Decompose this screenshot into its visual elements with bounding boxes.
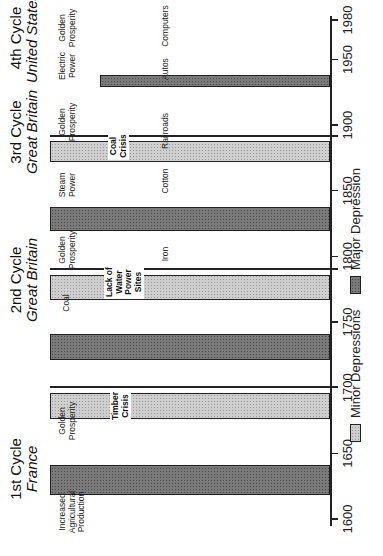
x-axis-tick — [330, 387, 338, 389]
cycle-separator-line — [50, 268, 338, 270]
major-depression-band — [50, 334, 330, 360]
x-axis-tick — [330, 59, 338, 61]
x-axis-tick — [330, 256, 338, 258]
cycle-title-3: 3rd Cycle Great Britain — [8, 90, 40, 174]
phase-label-golden-prosperity-2: Golden Prosperity — [58, 231, 77, 269]
crisis-label-timber: Timber Crisis — [110, 390, 131, 422]
legend-label-minor: Minor Depressions — [348, 310, 363, 418]
industry-label-autos: Autos — [160, 58, 170, 80]
minor-depression-band — [50, 275, 330, 300]
crisis-label-coal: Coal Crisis — [108, 132, 129, 160]
x-axis-tick-label: 1900 — [340, 111, 355, 140]
x-axis-tick — [330, 321, 338, 323]
cycle-number: 3rd Cycle — [8, 90, 24, 174]
phase-label-agricultural: Increased Agricultural Production — [58, 491, 87, 534]
cycle-number: 1st Cycle — [8, 438, 24, 500]
x-axis-tick-label: 1980 — [340, 6, 355, 35]
cycle-title-1: 1st Cycle France — [8, 438, 40, 500]
x-axis-tick-label: 1950 — [340, 45, 355, 74]
phase-label-steam-power: Steam Power — [58, 173, 77, 198]
legend-swatch-minor — [350, 424, 361, 442]
cycle-number: 2nd Cycle — [8, 238, 24, 322]
kondratieff-cycles-chart: 160016501700175018001850190019501980 1st… — [0, 0, 383, 556]
cycle-country: Great Britain — [24, 90, 40, 174]
industry-label-computers: Computers — [160, 5, 170, 47]
x-axis-line — [330, 16, 332, 526]
major-depression-band — [50, 207, 330, 232]
x-axis-tick — [330, 518, 338, 520]
x-axis-tick-label: 1600 — [340, 505, 355, 534]
x-axis-tick — [330, 19, 338, 21]
x-axis-tick-label: 1650 — [340, 439, 355, 468]
phase-label-coal: Coal — [62, 294, 72, 311]
cycle-country: France — [24, 438, 40, 500]
x-axis-tick — [330, 453, 338, 455]
phase-label-electric-power: Electric Power — [58, 52, 77, 80]
major-depression-band — [50, 465, 330, 495]
legend-label-major: Major Depression — [348, 168, 363, 270]
minor-depression-band — [50, 393, 330, 419]
cycle-country: Great Britain — [24, 238, 40, 322]
cycle-number: 4th Cycle — [8, 0, 24, 83]
phase-label-golden-prosperity-1: Golden Prosperity — [58, 402, 77, 440]
cycle-country: United States — [24, 0, 40, 83]
cycle-title-4: 4th Cycle United States — [8, 0, 40, 83]
legend-swatch-major — [350, 276, 361, 294]
cycle-separator-line — [50, 135, 338, 137]
industry-label-cotton: Cotton — [160, 168, 170, 193]
x-axis-tick — [330, 124, 338, 126]
x-axis-tick — [330, 190, 338, 192]
legend-minor-depressions: Minor Depressions — [348, 310, 363, 442]
phase-label-golden-prosperity-3: Golden Prosperity — [58, 103, 77, 141]
cycle-separator-line — [50, 386, 338, 388]
industry-label-iron: Iron — [160, 247, 170, 262]
crisis-label-water-power: Lack of Water Power Sites — [104, 265, 144, 299]
industry-label-railroads: Railroads — [160, 113, 170, 149]
cycle-title-2: 2nd Cycle Great Britain — [8, 238, 40, 322]
major-depression-band — [100, 75, 330, 87]
minor-depression-band — [50, 141, 330, 162]
phase-label-golden-prosperity-4: Golden Prosperity — [58, 9, 77, 47]
legend-major-depression: Major Depression — [348, 168, 363, 294]
